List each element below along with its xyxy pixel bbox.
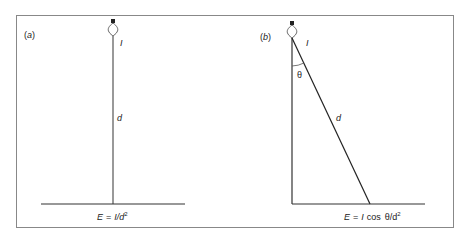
intensity-label: I [306, 38, 309, 48]
panel-a-label: (a) [24, 30, 35, 40]
angle-arc [292, 63, 304, 66]
lightbulb-icon [108, 19, 118, 36]
formula-a: E=I/d2 [97, 211, 128, 222]
angle-label: θ [297, 70, 302, 80]
formula-b: E=Icosθ/d2 [344, 211, 401, 222]
panel-a: (a) I d E=I/d2 [24, 19, 185, 222]
figure-frame [17, 16, 454, 228]
distance-label: d [117, 113, 123, 123]
panel-b-label: (b) [260, 32, 271, 42]
lightbulb-icon [287, 21, 297, 38]
illuminance-diagram: (a) I d E=I/d2 (b) I θ d E=Icosθ/d2 [0, 0, 469, 238]
distance-label: d [336, 113, 342, 123]
intensity-label: I [120, 38, 123, 48]
panel-b: (b) I θ d E=Icosθ/d2 [260, 21, 425, 222]
